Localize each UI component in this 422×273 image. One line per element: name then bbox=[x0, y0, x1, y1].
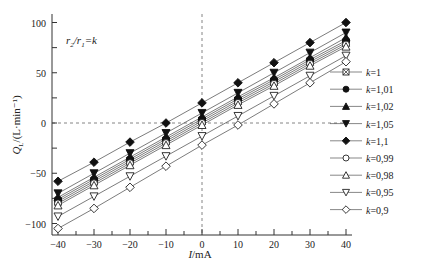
y-tick-label: 100 bbox=[31, 18, 46, 29]
x-tick-label: −40 bbox=[50, 239, 66, 250]
triangle-down-filled-marker-icon bbox=[90, 170, 98, 178]
circle-open-marker-icon bbox=[343, 155, 349, 161]
legend: k=1k=1,01k=1,02k=1,05k=1,1k=0,99k=0,98k=… bbox=[330, 67, 394, 216]
diamond-open-marker-icon bbox=[342, 57, 351, 66]
triangle-down-filled-marker-icon bbox=[126, 150, 134, 158]
diamond-filled-marker-icon bbox=[234, 79, 243, 88]
diamond-open-marker-icon bbox=[90, 204, 99, 213]
legend-label: k=1 bbox=[366, 67, 381, 78]
diamond-filled-marker-icon bbox=[342, 137, 350, 145]
triangle-down-filled-marker-icon bbox=[270, 69, 278, 77]
legend-item: k=0,99 bbox=[330, 153, 394, 164]
chart-canvas: −100−50050100−40−30−20−10010203040 k=1k=… bbox=[0, 0, 422, 273]
legend-label: k=1,1 bbox=[366, 136, 389, 147]
x-tick-label: 20 bbox=[269, 239, 279, 250]
triangle-down-open-marker-icon bbox=[54, 213, 62, 221]
y-tick-label: −100 bbox=[25, 219, 46, 230]
y-axis-label: QL/(L·min⁻¹) bbox=[10, 95, 25, 155]
triangle-down-filled-marker-icon bbox=[198, 109, 206, 117]
triangle-down-filled-marker-icon bbox=[54, 190, 62, 198]
triangle-down-open-marker-icon bbox=[126, 173, 134, 181]
triangle-down-open-marker-icon bbox=[162, 153, 170, 161]
legend-label: k=0,99 bbox=[366, 153, 394, 164]
square-x-marker-icon bbox=[343, 69, 349, 75]
diamond-open-marker-icon bbox=[126, 183, 135, 192]
diamond-open-marker-icon bbox=[198, 141, 207, 150]
diamond-open-marker-icon bbox=[162, 162, 171, 171]
legend-label: k=1,02 bbox=[366, 101, 394, 112]
legend-item: k=1 bbox=[330, 67, 381, 78]
y-tick-label: 0 bbox=[41, 118, 46, 129]
legend-item: k=1,01 bbox=[330, 84, 394, 95]
triangle-down-open-marker-icon bbox=[90, 193, 98, 201]
x-tick-label: 10 bbox=[233, 239, 243, 250]
diamond-open-marker-icon bbox=[54, 224, 63, 233]
legend-item: k=1,1 bbox=[330, 136, 389, 147]
circle-filled-marker-icon bbox=[343, 86, 349, 92]
legend-label: k=1,01 bbox=[366, 84, 394, 95]
x-tick-label: −10 bbox=[158, 239, 174, 250]
legend-item: k=1,02 bbox=[330, 101, 394, 112]
diamond-filled-marker-icon bbox=[126, 138, 135, 147]
x-tick-label: −20 bbox=[122, 239, 138, 250]
x-axis-label: I/mA bbox=[187, 248, 211, 260]
diamond-filled-marker-icon bbox=[54, 177, 63, 186]
triangle-down-filled-marker-icon bbox=[342, 29, 350, 37]
triangle-down-filled-marker-icon bbox=[162, 130, 170, 138]
x-tick-label: 40 bbox=[341, 239, 351, 250]
diamond-open-marker-icon bbox=[270, 100, 279, 109]
diamond-open-marker-icon bbox=[306, 79, 315, 88]
diamond-open-marker-icon bbox=[234, 121, 243, 130]
legend-item: k=0,98 bbox=[330, 170, 394, 181]
x-tick-label: 30 bbox=[305, 239, 315, 250]
diamond-filled-marker-icon bbox=[270, 58, 279, 67]
axes: −100−50050100−40−30−20−10010203040 bbox=[25, 14, 352, 250]
y-tick-label: 50 bbox=[36, 68, 46, 79]
legend-label: k=1,05 bbox=[366, 119, 394, 130]
triangle-down-filled-marker-icon bbox=[306, 49, 314, 57]
y-tick-label: −50 bbox=[30, 168, 46, 179]
diamond-filled-marker-icon bbox=[90, 158, 99, 167]
legend-item: k=0,95 bbox=[330, 187, 394, 198]
legend-item: k=1,05 bbox=[330, 119, 394, 130]
legend-label: k=0,9 bbox=[366, 205, 389, 216]
ratio-annotation: r2/r1=k bbox=[66, 34, 98, 49]
triangle-down-open-marker-icon bbox=[234, 112, 242, 120]
diamond-open-marker-icon bbox=[342, 206, 350, 214]
line-chart: −100−50050100−40−30−20−10010203040 k=1k=… bbox=[0, 0, 422, 273]
triangle-down-open-marker-icon bbox=[270, 92, 278, 100]
x-tick-label: −30 bbox=[86, 239, 102, 250]
legend-label: k=0,98 bbox=[366, 170, 394, 181]
triangle-down-open-marker-icon bbox=[198, 133, 206, 141]
diamond-filled-marker-icon bbox=[342, 18, 351, 27]
diamond-filled-marker-icon bbox=[162, 119, 171, 128]
legend-label: k=0,95 bbox=[366, 187, 394, 198]
legend-item: k=0,9 bbox=[330, 205, 389, 216]
diamond-filled-marker-icon bbox=[306, 38, 315, 47]
diamond-filled-marker-icon bbox=[198, 99, 207, 108]
